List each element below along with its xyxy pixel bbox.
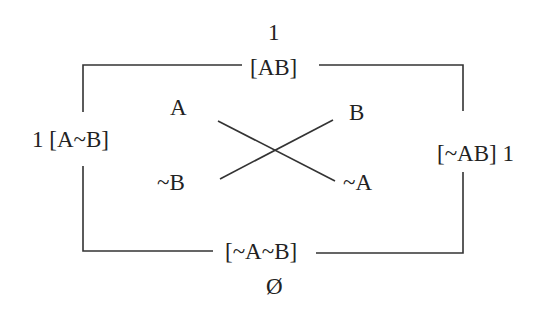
top-value: 1 [268,21,280,44]
top-right-bracket-line [319,65,463,111]
cross-line-a-to-not-a [218,121,335,181]
bottom-right-bracket-line [316,172,463,253]
top-node-label: [AB] [250,56,297,79]
cross-line-not-b-to-b [220,120,333,179]
top-left-bracket-line [83,65,242,112]
cross-label-b: B [349,101,364,124]
left-node-label: 1 [A~B] [32,128,109,151]
bottom-value: Ø [266,275,283,298]
cross-label-not-a: ~A [343,171,372,194]
cross-label-a: A [170,96,187,119]
bottom-node-label: [~A~B] [225,240,297,263]
cross-label-not-b: ~B [157,171,185,194]
right-node-label: [~AB] 1 [437,142,514,165]
bottom-left-bracket-line [83,166,213,251]
